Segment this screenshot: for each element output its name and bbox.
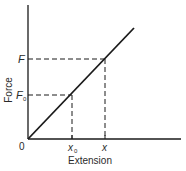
- x0-subscript: 0: [74, 148, 78, 154]
- x0-label: x: [67, 142, 74, 153]
- x-label: x: [101, 142, 108, 153]
- x-axis-title: Extension: [68, 155, 112, 166]
- f0-subscript: 0: [23, 96, 27, 102]
- force-extension-line: [28, 28, 134, 139]
- origin-label: 0: [19, 141, 25, 152]
- force-extension-diagram: F F 0 Force 0 x 0 x Extension: [0, 0, 186, 171]
- f-label: F: [18, 53, 26, 65]
- y-axis-title: Force: [3, 77, 14, 103]
